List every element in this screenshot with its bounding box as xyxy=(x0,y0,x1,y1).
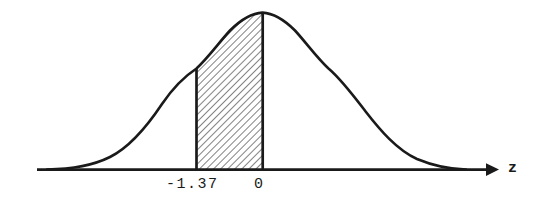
z-axis-line xyxy=(37,163,499,176)
normal-curve-diagram xyxy=(0,0,541,200)
axis-variable-label-z: z xyxy=(508,161,517,176)
axis-tick-label-zero: 0 xyxy=(254,177,265,192)
axis-tick-label-lower: -1.37 xyxy=(166,177,219,192)
normal-curve-figure: -1.37 0 z xyxy=(0,0,541,200)
